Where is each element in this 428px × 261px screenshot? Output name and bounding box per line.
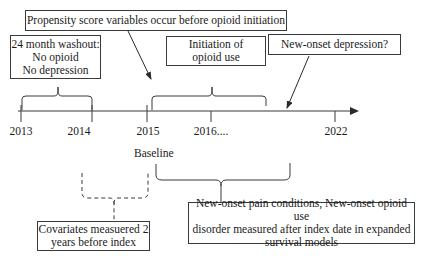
- new-onset-depression-text: New-onset depression?: [281, 38, 388, 51]
- initiation-brace: [152, 87, 266, 110]
- propensity-score-text: Propensity score variables occur before …: [27, 14, 285, 27]
- washout-line-2: No opioid: [32, 51, 78, 64]
- tick-label-2022: 2022: [325, 125, 348, 138]
- tick-label-2013: 2013: [10, 125, 33, 138]
- initiation-line-1: Initiation of: [189, 38, 244, 51]
- covariates-dashed-brace: [82, 172, 148, 221]
- outcomes-line-3: survival models: [265, 236, 338, 249]
- covariates-line-1: Covariates measuered 2: [39, 223, 149, 236]
- tick-label-2016: 2016....: [194, 125, 229, 138]
- washout-line-3: No depression: [22, 64, 88, 77]
- initiation-line-2: opioid use: [192, 51, 240, 64]
- depression-arrow: [287, 56, 309, 108]
- timeline-axis: [18, 107, 359, 115]
- baseline-label: Baseline: [134, 147, 174, 160]
- washout-brace: [22, 87, 92, 110]
- propensity-score-box: Propensity score variables occur before …: [25, 10, 287, 31]
- washout-line-1: 24 month washout:: [11, 38, 99, 51]
- outcomes-line-1: New-onset pain conditions, New-onset opi…: [189, 197, 414, 223]
- new-onset-depression-box: New-onset depression?: [268, 34, 401, 55]
- tick-label-2015: 2015: [137, 125, 160, 138]
- axis-arrow-icon: [350, 107, 359, 115]
- covariates-box: Covariates measuered 2 years before inde…: [37, 221, 150, 251]
- washout-box: 24 month washout: No opioid No depressio…: [10, 35, 101, 79]
- propensity-arrow: [128, 31, 151, 79]
- initiation-box: Initiation of opioid use: [166, 36, 266, 66]
- timeline-ticks: [21, 105, 335, 122]
- tick-label-2014: 2014: [68, 125, 91, 138]
- study-design-timeline: Propensity score variables occur before …: [0, 0, 428, 261]
- outcomes-line-2: disorder measured after index date in ex…: [193, 223, 411, 236]
- outcomes-box: New-onset pain conditions, New-onset opi…: [188, 202, 415, 244]
- covariates-line-2: years before index: [51, 236, 136, 249]
